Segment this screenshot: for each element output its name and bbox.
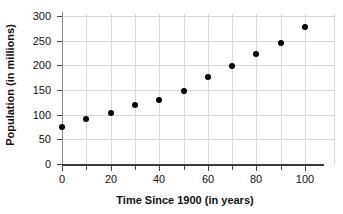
data-point (83, 116, 89, 122)
y-axis-tick-label: 50 (21, 133, 51, 145)
gridline-vertical (86, 14, 87, 164)
data-point (132, 102, 138, 108)
population-scatter-chart: Population (in millions) Time Since 1900… (0, 0, 343, 214)
x-axis-tick (62, 166, 63, 171)
data-point (253, 51, 259, 57)
x-axis-tick-label: 20 (96, 173, 126, 185)
x-axis-tick (159, 166, 160, 171)
x-axis-tick-label: 100 (290, 173, 320, 185)
gridline-horizontal (62, 65, 334, 66)
y-axis-tick (57, 115, 62, 116)
gridline-vertical (111, 14, 112, 164)
gridline-horizontal (62, 41, 334, 42)
gridline-horizontal (62, 139, 334, 140)
x-axis-minor-tick (184, 166, 185, 170)
y-axis-line (62, 12, 63, 164)
x-axis-tick-label: 40 (144, 173, 174, 185)
y-axis-tick (57, 41, 62, 42)
data-point (205, 74, 211, 80)
x-axis-minor-tick (86, 166, 87, 170)
gridline-horizontal (62, 16, 334, 17)
x-axis-tick (305, 166, 306, 171)
y-axis-tick (57, 90, 62, 91)
y-axis-tick-label: 200 (21, 59, 51, 71)
data-point (229, 63, 235, 69)
y-axis-tick-label: 300 (21, 10, 51, 22)
x-axis-line (62, 164, 324, 166)
data-point (302, 24, 308, 30)
x-axis-tick (256, 166, 257, 171)
data-point (59, 124, 65, 130)
gridline-horizontal (62, 115, 334, 116)
x-axis-tick (111, 166, 112, 171)
gridline-vertical (305, 14, 306, 164)
gridline-vertical (232, 14, 233, 164)
x-axis-tick-label: 80 (241, 173, 271, 185)
x-axis-tick-label: 60 (193, 173, 223, 185)
x-axis-tick-label: 0 (47, 173, 77, 185)
data-point (108, 110, 114, 116)
y-axis-tick (57, 139, 62, 140)
plot-area: 050100150200250300020406080100 (0, 0, 343, 214)
y-axis-tick (57, 65, 62, 66)
gridline-vertical (208, 14, 209, 164)
data-point (181, 88, 187, 94)
gridline-vertical (135, 14, 136, 164)
gridline-vertical (281, 14, 282, 164)
data-point (156, 97, 162, 103)
y-axis-tick-label: 0 (21, 158, 51, 170)
x-axis-minor-tick (135, 166, 136, 170)
y-axis-tick-label: 250 (21, 35, 51, 47)
y-axis-tick (57, 16, 62, 17)
x-axis-tick (208, 166, 209, 171)
data-point (278, 40, 284, 46)
gridline-horizontal (62, 90, 334, 91)
x-axis-minor-tick (232, 166, 233, 170)
x-axis-minor-tick (281, 166, 282, 170)
gridline-vertical (159, 14, 160, 164)
y-axis-tick-label: 150 (21, 84, 51, 96)
y-axis-tick (57, 164, 62, 165)
y-axis-tick-label: 100 (21, 109, 51, 121)
plot-right-border (334, 14, 335, 164)
gridline-vertical (256, 14, 257, 164)
